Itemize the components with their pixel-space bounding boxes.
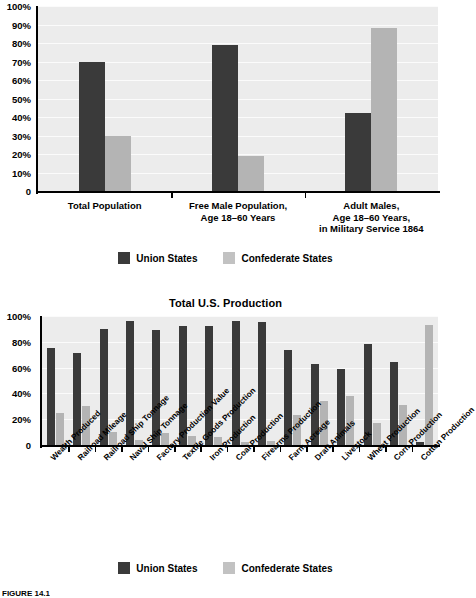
bar-confederate bbox=[238, 156, 264, 191]
legend-swatch-union-icon bbox=[118, 562, 130, 574]
y-tick-label: 40% bbox=[12, 112, 31, 123]
chart1-x-axis-categories: Total PopulationFree Male Population,Age… bbox=[38, 200, 438, 235]
chart2-legend: Union States Confederate States bbox=[0, 562, 451, 574]
y-tick-label: 20% bbox=[12, 414, 31, 425]
figure-caption: FIGURE 14.1 bbox=[2, 589, 50, 598]
y-tick-label: 0 bbox=[26, 186, 31, 197]
chart1-y-axis-line bbox=[36, 6, 38, 194]
category-label-line: Age 18–60 Years bbox=[171, 212, 304, 224]
bar-union bbox=[47, 348, 55, 445]
legend-item-union: Union States bbox=[118, 562, 197, 574]
legend-label-confederate: Confederate States bbox=[241, 253, 332, 264]
x-axis-tick bbox=[359, 447, 361, 452]
gridline bbox=[38, 6, 438, 7]
x-axis-tick bbox=[171, 193, 173, 198]
y-tick-label: 90% bbox=[12, 19, 31, 30]
legend-swatch-confederate-icon bbox=[223, 562, 235, 574]
chart1-x-axis-line bbox=[36, 191, 440, 193]
y-tick-label: 30% bbox=[12, 130, 31, 141]
bar-confederate bbox=[56, 413, 64, 445]
y-tick-label: 50% bbox=[12, 93, 31, 104]
y-tick-label: 80% bbox=[12, 336, 31, 347]
category-label-line: Age 18–60 Years, bbox=[305, 212, 438, 224]
legend-item-union: Union States bbox=[118, 252, 197, 264]
x-axis-category-label: Total Population bbox=[38, 200, 171, 235]
x-axis-tick bbox=[174, 447, 176, 452]
x-axis-category-label: Free Male Population,Age 18–60 Years bbox=[171, 200, 304, 235]
y-tick-label: 20% bbox=[12, 149, 31, 160]
chart-total-us-production: Total U.S. Production 100%80%60%40%20%0 … bbox=[0, 295, 451, 598]
legend-label-confederate: Confederate States bbox=[241, 563, 332, 574]
x-axis-tick bbox=[385, 447, 387, 452]
y-tick-label: 100% bbox=[7, 311, 31, 322]
category-label-line: Free Male Population, bbox=[171, 200, 304, 212]
gridline bbox=[38, 25, 438, 26]
x-axis-category-label: Adult Males,Age 18–60 Years,in Military … bbox=[305, 200, 438, 235]
legend-item-confederate: Confederate States bbox=[223, 252, 332, 264]
chart2-title: Total U.S. Production bbox=[0, 295, 451, 309]
legend-swatch-confederate-icon bbox=[223, 252, 235, 264]
y-tick-label: 60% bbox=[12, 362, 31, 373]
y-tick-label: 40% bbox=[12, 388, 31, 399]
chart1-legend: Union States Confederate States bbox=[0, 252, 451, 264]
y-tick-label: 70% bbox=[12, 56, 31, 67]
y-tick-label: 100% bbox=[7, 1, 31, 12]
x-axis-tick bbox=[121, 447, 123, 452]
y-tick-label: 60% bbox=[12, 75, 31, 86]
x-axis-tick bbox=[253, 447, 255, 452]
chart2-x-axis-categories: Wealth ProducedRailroad MileageRailroad … bbox=[42, 452, 438, 547]
x-axis-tick bbox=[280, 447, 282, 452]
bar-union bbox=[79, 62, 105, 192]
bar-confederate bbox=[371, 28, 397, 191]
category-label-line: in Military Service 1864 bbox=[305, 223, 438, 235]
chart2-y-axis-labels: 100%80%60%40%20%0 bbox=[0, 316, 34, 445]
x-axis-tick bbox=[227, 447, 229, 452]
legend-label-union: Union States bbox=[136, 563, 197, 574]
x-axis-tick bbox=[305, 193, 307, 198]
y-tick-label: 10% bbox=[12, 167, 31, 178]
legend-label-union: Union States bbox=[136, 253, 197, 264]
legend-item-confederate: Confederate States bbox=[223, 562, 332, 574]
x-axis-tick bbox=[95, 447, 97, 452]
x-axis-tick bbox=[200, 447, 202, 452]
y-tick-label: 80% bbox=[12, 38, 31, 49]
y-tick-label: 0 bbox=[26, 440, 31, 451]
x-axis-tick bbox=[68, 447, 70, 452]
x-axis-tick bbox=[306, 447, 308, 452]
bar-union bbox=[212, 45, 238, 191]
category-label-line: Adult Males, bbox=[305, 200, 438, 212]
chart1-plot-area bbox=[38, 6, 438, 191]
gridline bbox=[42, 316, 438, 317]
x-axis-tick bbox=[412, 447, 414, 452]
category-label-line: Total Population bbox=[38, 200, 171, 212]
x-axis-tick bbox=[148, 447, 150, 452]
x-axis-tick bbox=[332, 447, 334, 452]
chart1-y-axis-labels: 100%90%80%70%60%50%40%30%20%10%0 bbox=[0, 6, 34, 191]
bar-confederate bbox=[105, 136, 131, 192]
legend-swatch-union-icon bbox=[118, 252, 130, 264]
chart2-y-axis-line bbox=[40, 316, 42, 448]
bar-union bbox=[345, 113, 371, 191]
chart-population-comparison: 100%90%80%70%60%50%40%30%20%10%0 Total P… bbox=[0, 0, 451, 287]
